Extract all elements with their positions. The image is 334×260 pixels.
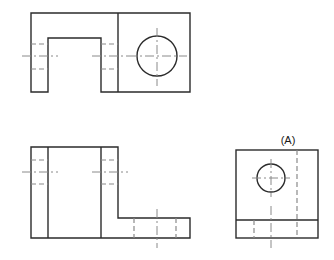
engineering-drawing-canvas: (A) <box>0 0 334 260</box>
drawing-sheet: (A) <box>0 0 334 260</box>
side-view-label: (A) <box>281 134 296 146</box>
